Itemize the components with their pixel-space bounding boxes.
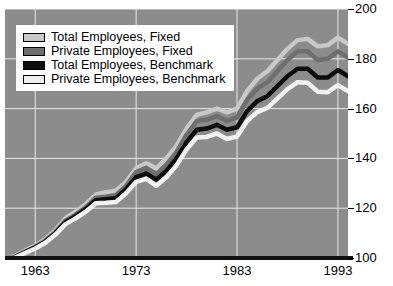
legend-item-label: Private Employees, Benchmark [51,73,225,86]
legend-item: Total Employees, Benchmark [23,58,225,72]
y-axis-tick-mark [348,208,354,209]
y-axis-tick-mark [348,258,354,259]
legend-item: Private Employees, Fixed [23,44,225,58]
y-axis-tick-label: 180 [355,52,377,65]
x-axis-tick-label: 1993 [308,264,368,277]
legend-swatch-icon [23,33,45,42]
x-axis-tick-label: 1973 [106,264,166,277]
y-axis-tick-mark [348,109,354,110]
x-axis-baseline [5,256,353,260]
legend-item-label: Private Employees, Fixed [51,45,193,58]
legend-item: Private Employees, Benchmark [23,72,225,86]
legend-swatch-icon [23,47,45,56]
legend-item-label: Total Employees, Benchmark [51,59,213,72]
y-axis-tick-label: 160 [355,102,377,115]
y-axis-tick-label: 200 [355,2,377,15]
y-axis-tick-label: 100 [355,251,377,264]
chart-legend: Total Employees, FixedPrivate Employees,… [16,25,234,91]
legend-swatch-icon [23,75,45,84]
chart-figure: 200180160140120100 1963197319831993 Tota… [0,0,393,286]
y-axis-tick-label: 120 [355,201,377,214]
y-axis-tick-mark [348,9,354,10]
x-axis-tick-label: 1963 [5,264,65,277]
x-axis-tick-label: 1983 [207,264,267,277]
legend-item: Total Employees, Fixed [23,30,225,44]
y-axis-tick-mark [348,59,354,60]
y-axis-tick-mark [348,158,354,159]
legend-swatch-icon [23,61,45,70]
y-axis-tick-label: 140 [355,151,377,164]
legend-item-label: Total Employees, Fixed [51,31,180,44]
